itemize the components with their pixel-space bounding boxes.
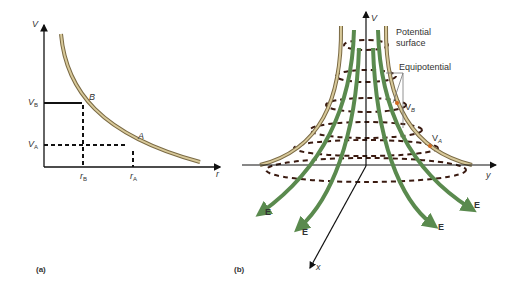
va-b-label: VA <box>432 134 442 144</box>
potential-curve <box>61 34 200 162</box>
va-label: VA <box>28 140 38 150</box>
field-label-e1: E <box>265 207 271 217</box>
point-a-label: A <box>138 132 144 141</box>
field-label-e2: E <box>302 227 308 237</box>
panel-a-label: (a) <box>36 265 46 274</box>
potential-surface-label: Potentialsurface <box>396 27 431 49</box>
vb-label: VB <box>28 98 38 108</box>
r-axis-label: r <box>216 170 219 179</box>
y-axis-b-label: y <box>486 171 491 180</box>
field-label-e4: E <box>474 200 480 210</box>
ra-label: rA <box>130 172 137 182</box>
v-axis-b-label: V <box>371 14 377 23</box>
field-label-e3: E <box>438 222 444 232</box>
panel-b-label: (b) <box>234 265 244 274</box>
vb-b-label: VB <box>405 103 415 113</box>
rb-label: rB <box>80 172 87 182</box>
x-axis-b-label: x <box>316 263 321 272</box>
v-axis-label: V <box>32 20 38 29</box>
va-marker <box>428 144 432 148</box>
vb-marker <box>395 101 399 105</box>
point-b-label: B <box>89 93 95 102</box>
panel-b-graph <box>242 12 496 268</box>
equipotential-label: Equipotential <box>399 63 451 72</box>
panel-a-graph <box>44 25 220 167</box>
